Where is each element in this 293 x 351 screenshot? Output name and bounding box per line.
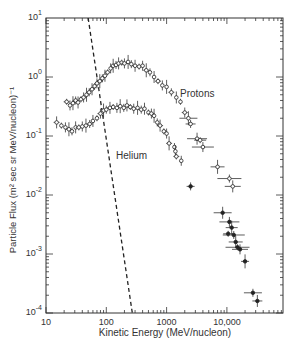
- axis-ticks: [46, 18, 283, 313]
- annotation-protons: Protons: [180, 88, 214, 99]
- y-tick-label: 10-3: [18, 248, 42, 258]
- x-axis-label: Kinetic Energy (MeV/nucleon): [99, 327, 231, 338]
- x-tick-label: 100: [99, 317, 114, 327]
- x-tick-label: 10,000: [213, 317, 241, 327]
- y-tick-label: 101: [18, 12, 42, 22]
- annotation-helium: Helium: [116, 150, 147, 161]
- y-tick-label: 100: [18, 71, 42, 81]
- y-axis-label: Particle Flux (m² sec sr MeV/nucleon)⁻¹: [7, 87, 18, 254]
- x-tick-label: 10: [41, 317, 51, 327]
- y-tick-label: 10-1: [18, 130, 42, 140]
- data-points: [54, 55, 263, 307]
- chart-plot: [0, 0, 293, 351]
- y-tick-label: 10-2: [18, 189, 42, 199]
- x-tick-label: 1000: [157, 317, 177, 327]
- y-tick-label: 10-4: [18, 307, 42, 317]
- plot-frame: [46, 18, 283, 313]
